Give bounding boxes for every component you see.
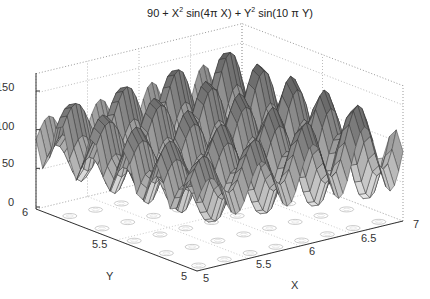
contour-ellipse-inner [350, 227, 357, 229]
y-tick-6: 6 [22, 206, 28, 218]
contour-ellipse-inner [240, 233, 247, 235]
z-tick-0: 0 [8, 196, 14, 208]
contour-ellipse [320, 232, 334, 237]
contour-ellipse-inner [195, 264, 202, 266]
contour-ellipse [185, 244, 199, 249]
contour-ellipse [159, 251, 173, 256]
contour-ellipse [95, 226, 109, 231]
contour-ellipse-inner [156, 233, 163, 235]
contour-ellipse-inner [189, 246, 196, 248]
contour-ellipse [262, 226, 276, 231]
contour-ellipse-inner [298, 239, 305, 241]
contour-ellipse [179, 226, 193, 231]
plot-area [0, 0, 430, 299]
surface-plot-figure: 90 + X2 sin(4π X) + Y2 sin(10 π Y) 0 50 … [0, 0, 430, 299]
contour-ellipse-inner [182, 227, 189, 229]
contour-ellipse [295, 238, 309, 243]
contour-ellipse-inner [66, 215, 73, 217]
contour-ellipse-inner [99, 227, 106, 229]
contour-ellipse-inner [247, 252, 254, 254]
contour-ellipse [314, 213, 328, 218]
contour-ellipse [243, 251, 257, 256]
y-axis-label: Y [106, 270, 113, 282]
contour-ellipse-inner [292, 221, 299, 223]
x-axis-label: X [291, 279, 298, 291]
x-tick-7: 7 [413, 218, 419, 230]
contour-ellipse-inner [343, 208, 350, 210]
contour-ellipse-inner [375, 221, 382, 223]
contour-ellipse [147, 213, 161, 218]
contour-ellipse-inner [118, 202, 125, 204]
contour-ellipse [372, 219, 386, 224]
contour-ellipse-inner [324, 233, 331, 235]
x-tick-5-5: 5.5 [256, 258, 271, 270]
contour-ellipse [89, 207, 103, 212]
contour-ellipse [230, 213, 244, 218]
contour-ellipse [63, 213, 77, 218]
contour-ellipse-inner [221, 258, 228, 260]
contour-ellipse [211, 238, 225, 243]
y-axis-line [36, 209, 197, 271]
contour-ellipse [340, 207, 354, 212]
contour-ellipse-inner [234, 215, 241, 217]
x-tick-5: 5 [203, 272, 209, 284]
contour-ellipse-inner [266, 227, 273, 229]
contour-ellipse [269, 244, 283, 249]
contour-ellipse [114, 201, 128, 206]
contour-ellipse [217, 257, 231, 262]
contour-ellipse [346, 226, 360, 231]
contour-ellipse-inner [131, 240, 138, 242]
y-tick-5: 5 [181, 270, 187, 282]
contour-ellipse-inner [124, 221, 131, 223]
contour-ellipse [127, 238, 141, 243]
contour-ellipse [153, 232, 167, 237]
contour-ellipse-inner [317, 214, 324, 216]
contour-ellipse [288, 219, 302, 224]
contour-ellipse [121, 220, 135, 225]
x-tick-6-5: 6.5 [361, 232, 376, 244]
contour-ellipse-inner [214, 239, 221, 241]
z-tick-100: 100 [0, 120, 14, 132]
contour-ellipse-inner [92, 209, 99, 211]
x-tick-6: 6 [309, 245, 315, 257]
z-tick-150: 150 [0, 81, 14, 93]
y-tick-5-5: 5.5 [92, 238, 107, 250]
z-tick-50: 50 [2, 157, 14, 169]
contour-ellipse [237, 232, 251, 237]
contour-ellipse-inner [150, 215, 157, 217]
contour-ellipse-inner [272, 246, 279, 248]
contour-ellipse-inner [163, 252, 170, 254]
contour-ellipse [192, 263, 206, 268]
x-axis-line [197, 221, 403, 271]
